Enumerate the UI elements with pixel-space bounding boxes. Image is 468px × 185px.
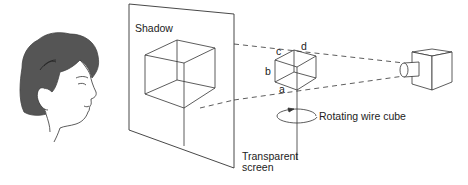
eyebrow [76, 77, 88, 79]
vertex-d-label: d [301, 40, 307, 52]
eye [78, 83, 86, 85]
hair [20, 33, 99, 116]
screen-label-line2: screen [242, 161, 274, 173]
observer-head [20, 33, 99, 142]
light-rays [200, 44, 404, 108]
vertex-b-label: b [265, 65, 271, 77]
rotating-cube-label: Rotating wire cube [319, 110, 406, 122]
vertex-a-label: a [279, 83, 285, 95]
diagram-canvas [0, 0, 468, 185]
mouth [84, 106, 89, 107]
projector-lamp [400, 49, 452, 90]
kinetic-depth-diagram: Shadow Transparent screen Rotating wire … [0, 0, 468, 185]
wire-cube [275, 50, 316, 160]
vertex-c-label: c [276, 45, 281, 57]
shadow-label: Shadow [135, 22, 173, 34]
shadow-cube [145, 40, 215, 146]
neck [46, 114, 50, 132]
